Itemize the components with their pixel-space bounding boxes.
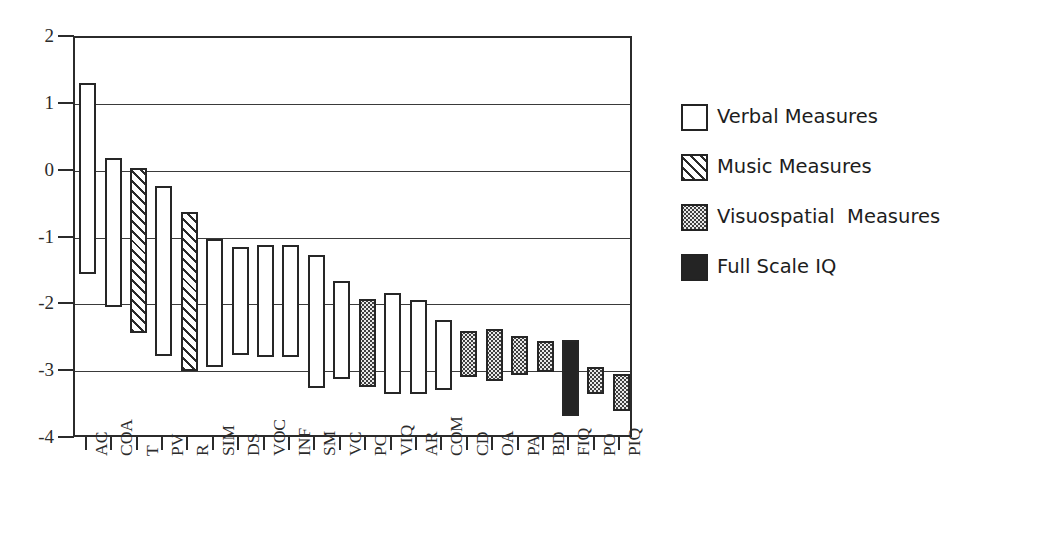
bar-com (435, 320, 452, 390)
x-axis-tick-label: PV (169, 434, 187, 456)
x-axis-tick-label: BD (550, 432, 568, 456)
legend-label: Music Measures (717, 157, 872, 177)
x-axis-tick-label: PA (525, 435, 543, 456)
x-axis-tick-label: VC (347, 432, 365, 456)
x-axis-tick-mark (567, 437, 569, 450)
y-axis-tick-label: 1 (45, 93, 55, 112)
x-axis-tick-mark (593, 437, 595, 450)
x-axis-tick-mark (491, 437, 493, 450)
legend-item[interactable]: Verbal Measures (681, 102, 878, 132)
bar-voc (257, 245, 274, 357)
x-axis-tick-mark (85, 437, 87, 450)
bar-coa (105, 158, 122, 307)
x-axis-tick-label: DS (245, 434, 263, 456)
x-axis-tick-mark (390, 437, 392, 450)
bar-inf (282, 245, 299, 357)
x-axis-tick-label: PO (601, 434, 619, 456)
bar-cd (460, 331, 477, 377)
x-axis-tick-label: SIM (220, 425, 238, 456)
y-axis-tick-mark (58, 302, 74, 304)
x-axis-tick-mark (288, 437, 290, 450)
x-axis-tick-mark (263, 437, 265, 450)
x-axis-tick-mark (542, 437, 544, 450)
bar-sim (206, 239, 223, 367)
x-axis-tick-label: FIQ (575, 428, 593, 456)
x-axis-tick-mark (466, 437, 468, 450)
bar-fiq (562, 340, 579, 416)
legend-item[interactable]: Full Scale IQ (681, 252, 836, 282)
x-axis-tick-label: AC (93, 432, 111, 456)
x-axis-tick-mark (517, 437, 519, 450)
bar-r (181, 212, 198, 372)
x-axis-tick-mark (237, 437, 239, 450)
y-axis-tick-mark (58, 236, 74, 238)
legend-swatch-icon (681, 104, 708, 131)
x-axis-tick-label: OA (499, 431, 517, 456)
y-axis-tick-label: -2 (38, 293, 54, 312)
y-axis-tick-mark (58, 102, 74, 104)
x-axis-tick-label: R (194, 444, 212, 456)
legend-label: Verbal Measures (717, 107, 878, 127)
x-axis-tick-label: PIQ (626, 428, 644, 456)
gridline (75, 171, 630, 172)
x-axis-tick-label: T (144, 445, 162, 456)
x-axis-tick-label: PC (372, 435, 390, 456)
x-axis-tick-mark (136, 437, 138, 450)
legend-item[interactable]: Visuospatial Measures (681, 202, 940, 232)
bar-t (130, 168, 147, 333)
x-axis-tick-mark (618, 437, 620, 450)
y-axis-tick-mark (58, 169, 74, 171)
bar-ds (232, 247, 249, 356)
bar-bd (537, 341, 554, 372)
legend-label: Visuospatial Measures (717, 207, 940, 227)
bar-pc (359, 299, 376, 387)
x-axis-tick-mark (186, 437, 188, 450)
y-axis-tick-label: -1 (38, 227, 54, 246)
y-axis-tick-mark (58, 35, 74, 37)
bar-piq (613, 374, 630, 411)
x-axis-tick-mark (339, 437, 341, 450)
x-axis-tick-label: INF (296, 428, 314, 456)
bar-ac (79, 83, 96, 274)
x-axis-tick-label: VOC (271, 419, 289, 456)
x-axis-tick-label: SM (321, 431, 339, 456)
y-axis-tick-mark (58, 436, 74, 438)
legend-swatch-icon (681, 154, 708, 181)
bar-sm (308, 255, 325, 387)
legend-swatch-icon (681, 254, 708, 281)
plot-area (73, 36, 632, 437)
y-axis-tick-label: -3 (38, 360, 54, 379)
x-axis-tick-mark (364, 437, 366, 450)
x-axis-tick-mark (212, 437, 214, 450)
gridline (75, 104, 630, 105)
x-axis-tick-mark (415, 437, 417, 450)
legend-swatch-icon (681, 204, 708, 231)
x-axis-tick-label: COA (118, 419, 136, 456)
x-axis-tick-mark (161, 437, 163, 450)
bar-viq (384, 293, 401, 394)
x-axis-tick-mark (110, 437, 112, 450)
bar-po (587, 367, 604, 394)
legend-label: Full Scale IQ (717, 257, 836, 277)
bar-oa (486, 329, 503, 381)
bar-pa (511, 336, 528, 375)
x-axis-tick-mark (313, 437, 315, 450)
x-axis-tick-label: AR (423, 432, 441, 456)
y-axis-tick-label: 0 (45, 160, 55, 179)
x-axis-tick-label: VIQ (398, 425, 416, 456)
bar-pv (155, 186, 172, 356)
y-axis-tick-mark (58, 369, 74, 371)
bar-vc (333, 281, 350, 379)
x-axis-tick-mark (440, 437, 442, 450)
y-axis-tick-label: -4 (38, 427, 54, 446)
bar-ar (410, 300, 427, 394)
x-axis-tick-label: CD (474, 432, 492, 456)
x-axis-tick-label: COM (448, 416, 466, 456)
y-axis-tick-label: 2 (45, 26, 55, 45)
chart-figure: 210-1-2-3-4 ACCOATPVRSIMDSVOCINFSMVCPCVI… (0, 0, 1039, 538)
legend-item[interactable]: Music Measures (681, 152, 872, 182)
